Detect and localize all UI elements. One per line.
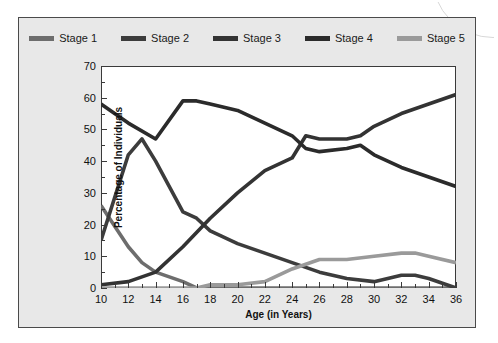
x-tick-major bbox=[156, 282, 157, 288]
x-tick-major bbox=[210, 282, 211, 288]
legend-swatch-stage-2 bbox=[121, 36, 146, 41]
legend-swatch-stage-5 bbox=[397, 36, 422, 41]
y-tick-label: 70 bbox=[84, 60, 96, 72]
series-line-stage-2 bbox=[101, 139, 456, 288]
x-tick-label: 28 bbox=[341, 293, 353, 305]
x-tick-label: 24 bbox=[286, 293, 298, 305]
y-tick-label: 50 bbox=[84, 123, 96, 135]
x-tick-label: 20 bbox=[231, 293, 243, 305]
x-tick-label: 12 bbox=[122, 293, 134, 305]
x-tick-major bbox=[401, 282, 402, 288]
x-axis-title: Age (in Years) bbox=[101, 309, 456, 320]
x-tick-label: 22 bbox=[259, 293, 271, 305]
chart-figure: Stage 1Stage 2Stage 3Stage 4Stage 5 0102… bbox=[18, 17, 476, 328]
x-tick-minor bbox=[279, 284, 280, 288]
x-tick-minor bbox=[388, 284, 389, 288]
legend-item-stage-2[interactable]: Stage 2 bbox=[121, 32, 189, 44]
x-tick-label: 18 bbox=[204, 293, 216, 305]
legend-item-stage-1[interactable]: Stage 1 bbox=[29, 32, 97, 44]
x-tick-major bbox=[319, 282, 320, 288]
y-tick-minor bbox=[101, 177, 105, 178]
x-tick-label: 14 bbox=[149, 293, 161, 305]
legend-label: Stage 2 bbox=[151, 32, 189, 44]
y-tick-label: 10 bbox=[84, 250, 96, 262]
x-tick-label: 16 bbox=[177, 293, 189, 305]
x-tick-minor bbox=[251, 284, 252, 288]
legend-label: Stage 1 bbox=[59, 32, 97, 44]
x-tick-major bbox=[292, 282, 293, 288]
y-tick-major bbox=[101, 193, 107, 194]
x-tick-major bbox=[347, 282, 348, 288]
x-tick-minor bbox=[197, 284, 198, 288]
y-tick-major bbox=[101, 129, 107, 130]
x-tick-major bbox=[374, 282, 375, 288]
x-tick-minor bbox=[115, 284, 116, 288]
x-tick-minor bbox=[442, 284, 443, 288]
x-tick-label: 34 bbox=[423, 293, 435, 305]
x-tick-major bbox=[183, 282, 184, 288]
x-tick-minor bbox=[306, 284, 307, 288]
legend-label: Stage 3 bbox=[243, 32, 281, 44]
y-tick-minor bbox=[101, 114, 105, 115]
x-tick-label: 10 bbox=[95, 293, 107, 305]
x-tick-label: 36 bbox=[450, 293, 462, 305]
x-tick-major bbox=[101, 282, 102, 288]
y-tick-label: 30 bbox=[84, 187, 96, 199]
screenshot-page: Stage 1Stage 2Stage 3Stage 4Stage 5 0102… bbox=[0, 0, 498, 343]
x-tick-label: 26 bbox=[313, 293, 325, 305]
x-tick-major bbox=[128, 282, 129, 288]
y-tick-minor bbox=[101, 272, 105, 273]
y-tick-major bbox=[101, 256, 107, 257]
x-tick-major bbox=[429, 282, 430, 288]
x-tick-minor bbox=[333, 284, 334, 288]
y-tick-major bbox=[101, 161, 107, 162]
x-tick-label: 32 bbox=[395, 293, 407, 305]
x-tick-minor bbox=[224, 284, 225, 288]
y-axis-title: Percentage of Individuals bbox=[113, 93, 124, 243]
x-tick-major bbox=[238, 282, 239, 288]
y-tick-minor bbox=[101, 209, 105, 210]
legend-item-stage-4[interactable]: Stage 4 bbox=[305, 32, 373, 44]
y-tick-major bbox=[101, 288, 107, 289]
x-tick-major bbox=[265, 282, 266, 288]
y-tick-label: 40 bbox=[84, 155, 96, 167]
x-tick-minor bbox=[142, 284, 143, 288]
plot-wrapper: 010203040506070 101214161820222426283032… bbox=[101, 66, 456, 288]
legend-label: Stage 4 bbox=[335, 32, 373, 44]
y-tick-major bbox=[101, 66, 107, 67]
x-tick-minor bbox=[169, 284, 170, 288]
chart-lines bbox=[101, 66, 456, 288]
y-tick-minor bbox=[101, 82, 105, 83]
legend-swatch-stage-1 bbox=[29, 36, 54, 41]
y-tick-major bbox=[101, 225, 107, 226]
legend-label: Stage 5 bbox=[427, 32, 465, 44]
y-tick-minor bbox=[101, 145, 105, 146]
x-tick-label: 30 bbox=[368, 293, 380, 305]
legend-item-stage-3[interactable]: Stage 3 bbox=[213, 32, 281, 44]
y-tick-label: 60 bbox=[84, 92, 96, 104]
y-tick-label: 20 bbox=[84, 219, 96, 231]
legend-swatch-stage-3 bbox=[213, 36, 238, 41]
y-tick-minor bbox=[101, 240, 105, 241]
legend-item-stage-5[interactable]: Stage 5 bbox=[397, 32, 465, 44]
x-tick-major bbox=[456, 282, 457, 288]
legend-swatch-stage-4 bbox=[305, 36, 330, 41]
x-tick-minor bbox=[415, 284, 416, 288]
y-tick-major bbox=[101, 98, 107, 99]
x-tick-minor bbox=[360, 284, 361, 288]
chart-legend: Stage 1Stage 2Stage 3Stage 4Stage 5 bbox=[19, 32, 475, 44]
